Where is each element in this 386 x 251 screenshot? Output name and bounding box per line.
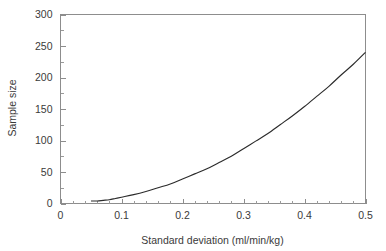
x-axis-title: Standard deviation (ml/min/kg) — [141, 234, 283, 246]
x-tick-label: 0.3 — [236, 209, 251, 221]
y-axis-title: Sample size — [6, 79, 18, 136]
sample-size-vs-standard-deviation-chart: 00.10.20.30.40.5 050100150200250300 Stan… — [0, 0, 386, 251]
y-tick-label: 0 — [47, 197, 53, 209]
y-tick-label: 150 — [35, 103, 53, 115]
x-tick-label: 0.1 — [114, 209, 129, 221]
y-tick-label: 300 — [35, 8, 53, 20]
y-tick-label: 50 — [41, 166, 53, 178]
x-tick-label: 0 — [58, 209, 64, 221]
x-tick-label: 0.2 — [175, 209, 190, 221]
y-tick-label: 200 — [35, 71, 53, 83]
y-tick-label: 250 — [35, 40, 53, 52]
y-tick-label: 100 — [35, 134, 53, 146]
x-tick-label: 0.4 — [297, 209, 312, 221]
chart-figure: 00.10.20.30.40.5 050100150200250300 Stan… — [0, 0, 386, 251]
x-tick-label: 0.5 — [358, 209, 373, 221]
